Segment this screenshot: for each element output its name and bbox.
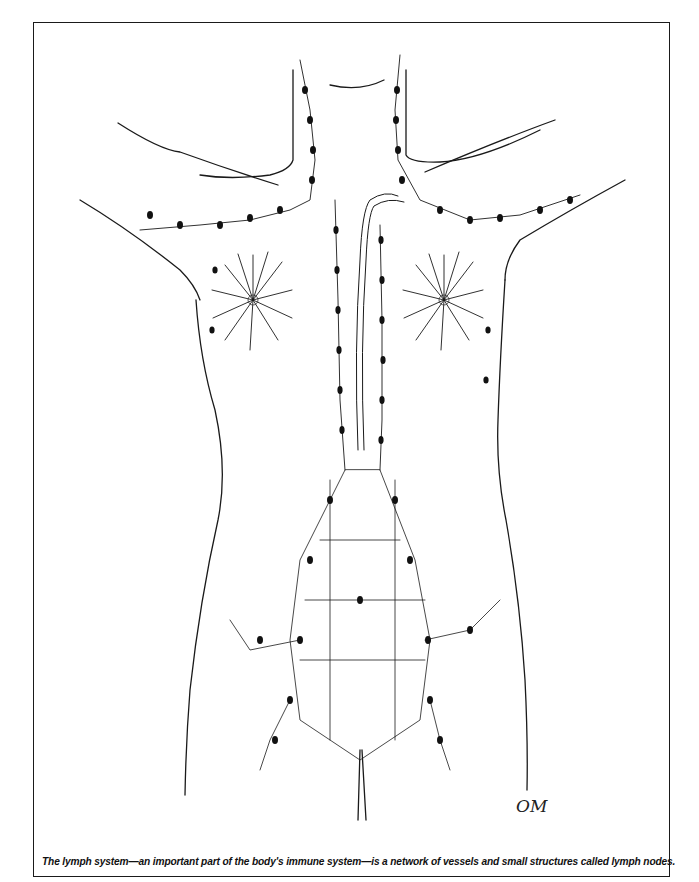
midline bbox=[358, 750, 366, 820]
breast-radial-right bbox=[403, 252, 483, 350]
vessel-leg-right bbox=[425, 600, 500, 770]
abdominal-network bbox=[290, 470, 430, 760]
breast-radial-left bbox=[212, 252, 292, 350]
neck-outline-right bbox=[406, 70, 540, 162]
neck-outline-left bbox=[200, 70, 293, 178]
vessel-neck-right bbox=[395, 55, 580, 220]
artist-signature: OM bbox=[516, 796, 547, 816]
vessel-chain-right bbox=[380, 225, 382, 470]
lymph-system-illustration bbox=[0, 0, 699, 882]
chin-line bbox=[330, 80, 384, 88]
vessel-neck-left bbox=[140, 60, 315, 230]
figure-caption: The lymph system—an important part of th… bbox=[42, 856, 662, 867]
shoulder-left bbox=[118, 123, 278, 185]
vessel-leg-left bbox=[230, 620, 300, 770]
torso-right-side bbox=[498, 280, 528, 790]
arm-left-outer bbox=[80, 200, 200, 300]
lymph-nodes bbox=[147, 86, 573, 744]
shoulder-right bbox=[425, 120, 555, 172]
arm-right-outer bbox=[505, 180, 625, 280]
torso-left-side bbox=[185, 300, 222, 795]
